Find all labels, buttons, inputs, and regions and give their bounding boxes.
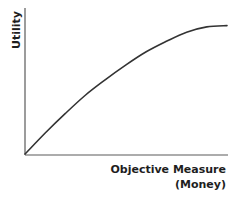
x-axis-label-line1: Objective Measure (110, 162, 226, 177)
x-axis-label-line2: (Money) (110, 177, 226, 192)
y-axis-label: Utility (10, 11, 23, 49)
utility-curve (25, 26, 227, 154)
x-axis-label: Objective Measure (Money) (110, 162, 226, 192)
utility-chart: Utility Objective Measure (Money) (0, 0, 239, 203)
